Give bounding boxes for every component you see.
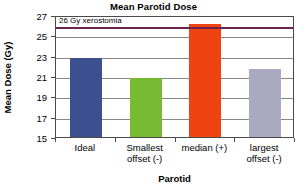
x-axis-category-label: largestoffset (-) xyxy=(228,142,300,164)
gridline xyxy=(56,37,293,38)
x-axis-category-line1: median (+) xyxy=(182,142,228,153)
bar-2 xyxy=(130,78,162,137)
y-axis-tick-mark xyxy=(51,16,55,17)
x-axis-category-line1: Smallest xyxy=(126,142,162,153)
plot-area xyxy=(55,16,294,138)
x-axis-category-line2: offset (-) xyxy=(228,153,300,164)
y-axis-tick-label: 27 xyxy=(23,11,47,22)
x-axis-category-line1: Ideal xyxy=(75,142,96,153)
bar-4 xyxy=(249,69,281,137)
threshold-annotation-label: 26 Gy xerostomia xyxy=(59,16,122,25)
x-axis-label: Parotid xyxy=(55,173,294,184)
x-axis-category-line2: offset (-) xyxy=(109,153,181,164)
y-axis-tick-label: 19 xyxy=(23,92,47,103)
y-axis-tick-label: 15 xyxy=(23,133,47,144)
y-axis-tick-mark xyxy=(51,118,55,119)
y-axis-tick-mark xyxy=(51,77,55,78)
y-axis-tick-label: 17 xyxy=(23,112,47,123)
y-axis-tick-label: 25 xyxy=(23,31,47,42)
y-axis-label: Mean Dose (Gy) xyxy=(1,16,15,138)
chart-container: Mean Parotid Dose Mean Dose (Gy) Parotid… xyxy=(0,0,307,195)
threshold-line xyxy=(56,27,293,28)
bar-1 xyxy=(70,58,102,137)
y-axis-tick-mark xyxy=(51,97,55,98)
x-axis-category-line1: largest xyxy=(250,142,279,153)
y-axis-label-text: Mean Dose (Gy) xyxy=(3,41,14,113)
bar-3 xyxy=(189,24,221,137)
y-axis-tick-mark xyxy=(51,36,55,37)
y-axis-tick-label: 21 xyxy=(23,72,47,83)
y-axis-tick-mark xyxy=(51,57,55,58)
y-axis-tick-label: 23 xyxy=(23,51,47,62)
